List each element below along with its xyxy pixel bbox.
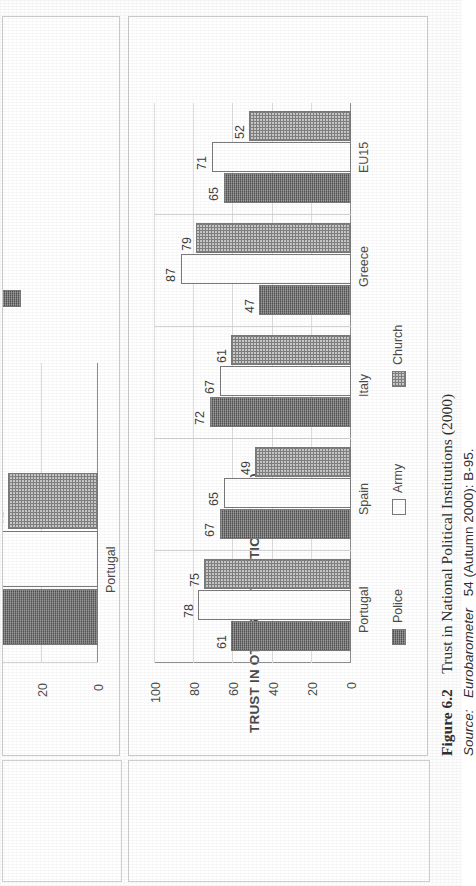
bar-portugal-church xyxy=(204,559,351,589)
value-label-eu15-church: 52 xyxy=(233,125,247,139)
figure-source: Source: Eurobarometer 54 (Autumn 2000): … xyxy=(461,0,476,756)
ytick-label-0: 0 xyxy=(345,682,359,689)
value-label-portugal-police: 61 xyxy=(215,635,229,649)
chart-panel-trust-other-institutions: TRUST IN OTHER INSTITUTIONS (2000) 61 78 xyxy=(128,16,428,756)
bar-greece-police xyxy=(259,285,351,315)
ytick-label-top-20: 20 xyxy=(36,683,50,697)
value-label-eu15-police: 65 xyxy=(207,187,221,201)
ytick-label-top-0: 0 xyxy=(92,684,106,691)
page-edge-panel-main xyxy=(128,760,430,882)
category-label-greece: Greece xyxy=(357,246,371,287)
legend-swatch-police xyxy=(392,629,406,645)
y-axis-line-main xyxy=(155,662,351,663)
bar-eu15-police xyxy=(224,173,351,203)
bar-top-portugal-church xyxy=(8,473,98,529)
legend-swatch-army xyxy=(392,499,406,515)
category-label-portugal: Portugal xyxy=(357,586,371,633)
legend-label-police: Police xyxy=(391,589,405,623)
value-label-top-portugal-church: 32 xyxy=(2,511,6,525)
value-label-greece-church: 79 xyxy=(180,237,194,251)
bar-top-portugal-police xyxy=(2,589,98,645)
value-label-italy-army: 67 xyxy=(203,380,217,394)
category-label-spain: Spain xyxy=(357,483,371,515)
value-label-eu15-army: 71 xyxy=(195,156,209,170)
category-sep-1 xyxy=(155,550,351,551)
bar-eu15-church xyxy=(249,111,351,141)
value-label-italy-police: 72 xyxy=(193,411,207,425)
value-label-spain-police: 67 xyxy=(203,523,217,537)
bar-italy-army xyxy=(220,366,351,396)
category-label-italy: Italy xyxy=(357,374,371,397)
value-label-greece-army: 87 xyxy=(164,268,178,282)
bar-eu15-army xyxy=(212,142,351,172)
gridline-80-top xyxy=(2,662,98,663)
bar-top-portugal-army xyxy=(2,531,98,587)
chart-panel-top-clipped: 67 67 32 Portugal 0 20 40 60 80 xyxy=(2,16,120,756)
value-label-spain-army: 65 xyxy=(207,492,221,506)
plot-area-top-chart: 67 67 32 Portugal 0 20 40 60 80 xyxy=(2,363,98,663)
ytick-label-60: 60 xyxy=(227,682,241,696)
category-sep-2 xyxy=(155,438,351,439)
value-label-italy-church: 61 xyxy=(215,349,229,363)
figure-caption: Figure 6.2 Trust in National Political I… xyxy=(438,0,456,756)
ytick-label-100: 100 xyxy=(149,682,163,703)
category-label-top-portugal: Portugal xyxy=(104,546,118,593)
chart-legend: Police Army Church xyxy=(391,125,415,645)
ytick-label-40: 40 xyxy=(267,682,281,696)
legend-label-church: Church xyxy=(391,325,405,365)
legend-swatch-church xyxy=(392,371,406,387)
bar-italy-police xyxy=(210,397,351,427)
value-label-spain-church: 49 xyxy=(239,461,253,475)
bar-spain-church xyxy=(255,447,351,477)
page-edge-panel-top xyxy=(2,760,122,882)
bar-portugal-police xyxy=(231,621,351,651)
source-publication: Eurobarometer xyxy=(461,608,476,698)
figure-title-text: Trust in National Political Institutions… xyxy=(438,394,455,674)
ytick-label-80: 80 xyxy=(188,682,202,696)
bar-portugal-army xyxy=(198,590,351,620)
category-label-eu15: EU15 xyxy=(357,142,371,173)
bar-spain-army xyxy=(224,478,351,508)
category-sep-3 xyxy=(155,326,351,327)
bar-greece-army xyxy=(181,254,352,284)
value-label-greece-police: 47 xyxy=(243,299,257,313)
plot-area-main-chart: 61 78 75 Portugal 67 65 49 Spain 72 67 6… xyxy=(155,103,351,663)
figure-number: Figure 6.2 xyxy=(438,689,455,756)
bar-greece-church xyxy=(196,223,351,253)
value-label-portugal-army: 78 xyxy=(182,604,196,618)
gridline-100-main xyxy=(154,103,155,663)
legend-swatch-top-police xyxy=(2,290,21,307)
legend-label-army: Army xyxy=(391,464,405,493)
source-detail: 54 (Autumn 2000): B-95. xyxy=(461,449,476,597)
source-label: Source: xyxy=(461,709,476,756)
category-sep-4 xyxy=(155,214,351,215)
ytick-label-20: 20 xyxy=(306,682,320,696)
bar-italy-church xyxy=(231,335,351,365)
value-label-portugal-church: 75 xyxy=(188,573,202,587)
bar-spain-police xyxy=(220,509,351,539)
